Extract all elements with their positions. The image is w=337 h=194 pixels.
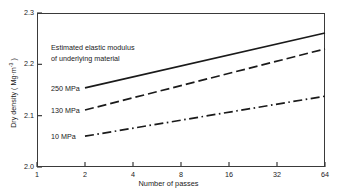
x-tick-label: 8 — [166, 171, 196, 178]
series-label: 10 MPa — [51, 132, 76, 141]
x-tick-label: 64 — [310, 171, 337, 178]
x-axis-title: Number of passes — [0, 179, 337, 188]
chart-figure: 2.02.12.22.3 1248163264 Estimated elasti… — [0, 0, 337, 194]
x-tick-label: 32 — [262, 171, 292, 178]
tick-marks — [37, 13, 325, 167]
series-label: 250 MPa — [51, 84, 80, 93]
y-tick-label: 2.3 — [0, 9, 34, 16]
y-axis-title-exponent: -3 — [8, 63, 14, 68]
y-tick-label: 2.0 — [0, 163, 34, 170]
x-tick-label: 1 — [22, 171, 52, 178]
y-axis-title-holder: Dry density ( Mg·m-3 ) — [6, 38, 20, 148]
annotation-line-2: of underlying material — [51, 54, 135, 65]
y-axis-title: Dry density ( Mg·m-3 ) — [8, 58, 18, 128]
x-tick-label: 16 — [214, 171, 244, 178]
series-line — [85, 96, 325, 136]
x-tick-label: 2 — [70, 171, 100, 178]
y-axis-title-main: Dry density ( Mg·m — [9, 67, 18, 128]
series-label: 130 MPa — [51, 106, 80, 115]
x-tick-label: 4 — [118, 171, 148, 178]
annotation-line-1: Estimated elastic modulus — [51, 43, 135, 54]
annotation-note: Estimated elastic modulus of underlying … — [51, 43, 135, 64]
y-axis-title-tail: ) — [9, 58, 18, 62]
plot-lines — [37, 13, 325, 167]
